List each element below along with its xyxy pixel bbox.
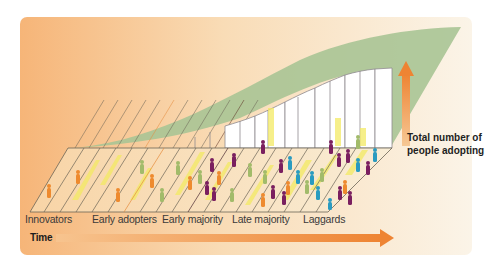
category-label-late-majority: Late majority — [232, 213, 290, 225]
category-label-early-majority: Early majority — [162, 213, 223, 225]
diffusion-diagram: Innovators Early adopters Early majority… — [0, 0, 493, 264]
y-axis-label-line2: people adopting — [407, 144, 484, 157]
y-axis-label: Total number of people adopting — [407, 131, 484, 157]
category-label-laggards: Laggards — [303, 213, 345, 225]
x-axis-label: Time — [30, 232, 52, 243]
y-axis-label-line1: Total number of — [407, 131, 484, 144]
category-label-early-adopters: Early adopters — [92, 213, 157, 225]
category-label-innovators: Innovators — [25, 213, 72, 225]
